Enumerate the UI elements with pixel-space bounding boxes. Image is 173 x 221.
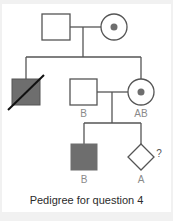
male-unaffected-ii2 [70, 79, 97, 105]
query-mark: ? [156, 148, 162, 159]
label-iii1: B [81, 174, 88, 185]
label-ii2: B [80, 108, 87, 119]
carrier-dot-icon [138, 89, 145, 96]
carrier-dot-icon [111, 24, 118, 31]
unknown-sex-iii2 [128, 144, 154, 170]
pedigree-diagram: B AB B ? A [0, 0, 173, 221]
male-unaffected-i1 [42, 14, 70, 40]
male-affected-iii1 [71, 144, 97, 170]
label-ii3: AB [134, 108, 148, 119]
label-iii2: A [138, 174, 145, 185]
figure-caption: Pedigree for question 4 [0, 194, 173, 206]
